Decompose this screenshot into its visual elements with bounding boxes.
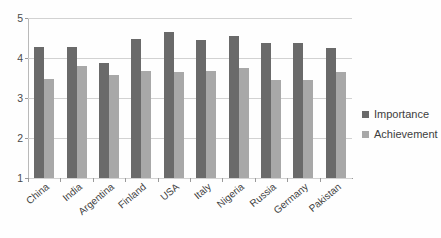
bar-achievement	[174, 72, 184, 178]
bar-importance	[67, 47, 77, 178]
bar-groups	[28, 18, 352, 178]
x-axis-label-cell: USA	[158, 179, 190, 235]
y-axis-tick-label: 1	[17, 173, 23, 184]
bar-achievement	[141, 71, 151, 178]
y-axis-tick-label: 3	[17, 93, 23, 104]
bar-importance	[34, 47, 44, 178]
bar-achievement	[109, 75, 119, 178]
bar-importance	[229, 36, 239, 178]
chart-legend: Importance Achievement	[362, 108, 438, 148]
bar-group	[28, 18, 60, 178]
bar-achievement	[206, 71, 216, 178]
y-axis-tick-label: 2	[17, 133, 23, 144]
bar-achievement	[271, 80, 281, 178]
bar-group	[60, 18, 92, 178]
legend-swatch-icon	[362, 131, 369, 138]
bar-achievement	[44, 79, 54, 178]
bar-importance	[196, 40, 206, 178]
bar-group	[125, 18, 157, 178]
x-axis-label-cell: Finland	[125, 179, 157, 235]
bar-importance	[261, 43, 271, 178]
legend-swatch-icon	[362, 111, 369, 118]
legend-label: Achievement	[374, 128, 438, 140]
bar-group	[190, 18, 222, 178]
bar-importance	[131, 39, 141, 178]
x-axis-label-cell: Pakistan	[320, 179, 352, 235]
plot-area: 12345	[28, 18, 352, 178]
bar-group	[158, 18, 190, 178]
bar-importance	[293, 43, 303, 178]
bar-achievement	[239, 68, 249, 178]
y-axis-tick-label: 4	[17, 53, 23, 64]
bar-group	[320, 18, 352, 178]
y-axis-tick-label: 5	[17, 13, 23, 24]
x-axis-tick-label: India	[60, 181, 84, 203]
x-axis-labels: ChinaIndiaArgentinaFinlandUSAItalyNigeri…	[28, 179, 352, 235]
bar-chart: 12345 ChinaIndiaArgentinaFinlandUSAItaly…	[0, 0, 441, 238]
bar-importance	[326, 48, 336, 178]
legend-item-achievement: Achievement	[362, 128, 438, 140]
bar-importance	[164, 32, 174, 178]
bar-achievement	[336, 72, 346, 178]
x-axis-label-cell: China	[28, 179, 60, 235]
legend-label: Importance	[374, 108, 429, 120]
x-axis-tick-label: Italy	[192, 181, 213, 201]
legend-item-importance: Importance	[362, 108, 438, 120]
bar-group	[287, 18, 319, 178]
x-axis-tick-label: USA	[158, 181, 181, 203]
bar-importance	[99, 63, 109, 178]
bar-group	[222, 18, 254, 178]
x-axis-tick-label: China	[24, 181, 51, 206]
x-axis-label-cell: Italy	[190, 179, 222, 235]
bar-achievement	[77, 66, 87, 178]
bar-group	[93, 18, 125, 178]
x-axis-label-cell: Nigeria	[222, 179, 254, 235]
bar-group	[255, 18, 287, 178]
bar-achievement	[303, 80, 313, 178]
